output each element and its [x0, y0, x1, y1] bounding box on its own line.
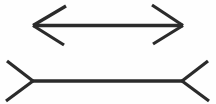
canvas-background: [0, 0, 216, 104]
illusion-svg-canvas: [0, 0, 216, 104]
muller-lyer-figure: Müller-Lyer illusion: [0, 0, 216, 104]
